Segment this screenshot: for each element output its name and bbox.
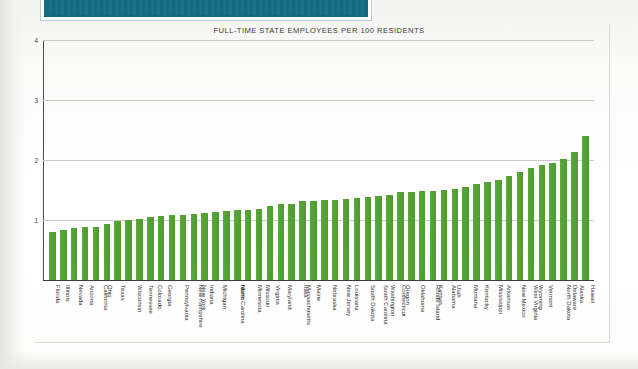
bar[interactable] (517, 172, 523, 280)
bar[interactable] (397, 192, 403, 280)
bar[interactable] (180, 215, 186, 280)
bar[interactable] (278, 204, 284, 280)
bar[interactable] (354, 198, 360, 280)
bar[interactable] (71, 228, 77, 280)
bar-slot (362, 41, 373, 280)
bar[interactable] (267, 206, 273, 280)
bar-slot (482, 41, 493, 280)
bar[interactable] (288, 204, 294, 280)
bar[interactable] (191, 214, 197, 280)
bar[interactable] (49, 232, 55, 280)
bar[interactable] (343, 199, 349, 280)
bar-slot (449, 41, 460, 280)
bar[interactable] (365, 197, 371, 280)
chart-title: FULL-TIME STATE EMPLOYEES PER 100 RESIDE… (0, 26, 638, 35)
x-label-slot: Alabama (440, 284, 451, 366)
bar-slot (275, 41, 286, 280)
x-label-slot: North Carolina (222, 284, 233, 366)
bar-slot (460, 41, 471, 280)
bar[interactable] (93, 227, 99, 280)
bar-slot (221, 41, 232, 280)
bar-slot (330, 41, 341, 280)
bar-slot (58, 41, 69, 280)
x-label-slot: Ohio (102, 284, 113, 366)
x-label-slot: Wyoming (527, 284, 538, 366)
bar-slot (254, 41, 265, 280)
bar[interactable] (245, 210, 251, 280)
bar-slot (199, 41, 210, 280)
bar[interactable] (114, 221, 120, 280)
bar[interactable] (452, 189, 458, 280)
bar-slot (286, 41, 297, 280)
bar-slot (210, 41, 221, 280)
bar[interactable] (158, 216, 164, 280)
bar[interactable] (201, 213, 207, 280)
bar-slot (243, 41, 254, 280)
x-label-slot: Indiana (200, 284, 211, 366)
x-label-slot: New Jersey (331, 284, 342, 366)
x-label-slot: New Mexico (505, 284, 516, 366)
bar-slot (547, 41, 558, 280)
bar[interactable] (582, 136, 588, 280)
bar[interactable] (571, 152, 577, 280)
bar[interactable] (60, 230, 66, 280)
bar[interactable] (169, 215, 175, 280)
bar[interactable] (560, 159, 566, 280)
bar[interactable] (506, 176, 512, 280)
bar[interactable] (473, 184, 479, 280)
bar-slot (178, 41, 189, 280)
bar[interactable] (484, 182, 490, 280)
bar[interactable] (332, 200, 338, 280)
x-label-slot: Arizona (80, 284, 91, 366)
x-label-slot: Oregon (396, 284, 407, 366)
x-label-slot: Utah (451, 284, 462, 366)
bar-slot (352, 41, 363, 280)
bar-slot (319, 41, 330, 280)
bar[interactable] (419, 191, 425, 280)
bar[interactable] (549, 163, 555, 280)
x-axis-line (43, 280, 594, 281)
bar[interactable] (430, 191, 436, 280)
bar[interactable] (375, 196, 381, 280)
page-left-shadow (0, 0, 26, 369)
bar[interactable] (212, 212, 218, 280)
x-label-slot: Virginia (265, 284, 276, 366)
x-label-slot: Georgia (156, 284, 167, 366)
bar[interactable] (441, 190, 447, 280)
x-label-slot: Alaska (571, 284, 582, 366)
bar[interactable] (408, 192, 414, 280)
bar[interactable] (125, 220, 131, 280)
x-label-slot: Wisconsin (123, 284, 134, 366)
bar[interactable] (310, 201, 316, 280)
bar[interactable] (528, 168, 534, 280)
bar-slot (580, 41, 591, 280)
bar[interactable] (321, 200, 327, 280)
bar[interactable] (234, 210, 240, 280)
bar[interactable] (299, 201, 305, 280)
bar[interactable] (147, 217, 153, 280)
bar-slot (384, 41, 395, 280)
bar-slot (406, 41, 417, 280)
bar-slot (428, 41, 439, 280)
x-label-slot: Vermont (538, 284, 549, 366)
x-label-slot: Hawaii (581, 284, 592, 366)
bar[interactable] (136, 219, 142, 280)
bar-slot (80, 41, 91, 280)
bar-slot (569, 41, 580, 280)
bar[interactable] (386, 195, 392, 280)
bar[interactable] (82, 227, 88, 280)
bar[interactable] (462, 187, 468, 280)
x-label-slot: Louisiana (341, 284, 352, 366)
x-label-slot: Maine (309, 284, 320, 366)
teal-masthead-inner (46, 0, 366, 15)
x-axis-label: Hawaii (590, 285, 596, 303)
bar[interactable] (539, 165, 545, 280)
bar-slot (341, 41, 352, 280)
bar[interactable] (223, 211, 229, 280)
bar-slot (308, 41, 319, 280)
bar-slot (536, 41, 547, 280)
bar[interactable] (104, 224, 110, 280)
bar[interactable] (256, 209, 262, 280)
x-label-slot: West Virginia (516, 284, 527, 366)
bar[interactable] (495, 180, 501, 280)
